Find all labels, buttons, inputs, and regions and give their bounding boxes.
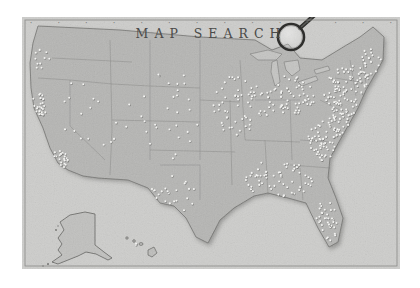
map-pin[interactable] <box>36 107 38 109</box>
map-pin[interactable] <box>345 109 347 111</box>
map-pin[interactable] <box>128 104 130 106</box>
map-pin[interactable] <box>326 146 328 148</box>
map-pin[interactable] <box>234 95 236 97</box>
map-pin[interactable] <box>364 63 366 65</box>
map-pin[interactable] <box>65 164 67 166</box>
map-pin[interactable] <box>293 168 295 170</box>
map-pin[interactable] <box>298 110 300 112</box>
map-pin[interactable] <box>280 105 282 107</box>
map-pin[interactable] <box>64 100 66 102</box>
map-pin[interactable] <box>309 86 311 88</box>
map-pin[interactable] <box>218 104 220 106</box>
map-pin[interactable] <box>329 141 331 143</box>
map-pin[interactable] <box>161 190 163 192</box>
map-pin[interactable] <box>307 135 309 137</box>
map-pin[interactable] <box>334 116 336 118</box>
map-pin[interactable] <box>247 102 249 104</box>
map-pin[interactable] <box>359 77 361 79</box>
map-pin[interactable] <box>92 98 94 100</box>
map-pin[interactable] <box>330 209 332 211</box>
map-pin[interactable] <box>324 209 326 211</box>
map-pin[interactable] <box>40 97 42 99</box>
map-pin[interactable] <box>168 82 170 84</box>
map-pin[interactable] <box>332 114 334 116</box>
map-pin[interactable] <box>245 125 247 127</box>
map-pin[interactable] <box>33 105 35 107</box>
map-pin[interactable] <box>309 103 311 105</box>
map-pin[interactable] <box>213 110 215 112</box>
map-pin[interactable] <box>327 217 329 219</box>
map-pin[interactable] <box>322 120 324 122</box>
map-pin[interactable] <box>125 126 127 128</box>
map-pin[interactable] <box>269 101 271 103</box>
map-pin[interactable] <box>63 166 65 168</box>
map-pin[interactable] <box>329 124 331 126</box>
map-pin[interactable] <box>277 84 279 86</box>
map-pin[interactable] <box>333 226 335 228</box>
map-pin[interactable] <box>336 134 338 136</box>
map-pin[interactable] <box>59 150 61 152</box>
map-pin[interactable] <box>274 88 276 90</box>
map-pin[interactable] <box>334 85 336 87</box>
map-pin[interactable] <box>41 67 43 69</box>
map-pin[interactable] <box>237 95 239 97</box>
map-pin[interactable] <box>258 184 260 186</box>
map-pin[interactable] <box>319 220 321 222</box>
map-pin[interactable] <box>44 111 46 113</box>
map-pin[interactable] <box>343 86 345 88</box>
map-pin[interactable] <box>42 98 44 100</box>
map-pin[interactable] <box>251 172 253 174</box>
map-pin[interactable] <box>267 96 269 98</box>
map-pin[interactable] <box>273 175 275 177</box>
map-pin[interactable] <box>371 54 373 56</box>
map-pin[interactable] <box>222 129 224 131</box>
map-pin[interactable] <box>228 76 230 78</box>
map-pin[interactable] <box>333 146 335 148</box>
map-pin[interactable] <box>334 119 336 121</box>
map-pin[interactable] <box>60 153 62 155</box>
map-pin[interactable] <box>329 117 331 119</box>
map-pin[interactable] <box>325 131 327 133</box>
map-pin[interactable] <box>298 189 300 191</box>
map-pin[interactable] <box>319 157 321 159</box>
map-pin[interactable] <box>328 103 330 105</box>
map-pin[interactable] <box>321 224 323 226</box>
map-pin[interactable] <box>110 141 112 143</box>
map-pin[interactable] <box>331 120 333 122</box>
map-pin[interactable] <box>54 151 56 153</box>
map-pin[interactable] <box>319 145 321 147</box>
map-pin[interactable] <box>176 83 178 85</box>
map-pin[interactable] <box>339 95 341 97</box>
map-pin[interactable] <box>249 105 251 107</box>
map-pin[interactable] <box>342 126 344 128</box>
map-pin[interactable] <box>321 159 323 161</box>
map-pin[interactable] <box>345 68 347 70</box>
map-pin[interactable] <box>370 52 372 54</box>
map-pin[interactable] <box>314 135 316 137</box>
map-pin[interactable] <box>280 96 282 98</box>
map-pin[interactable] <box>338 121 340 123</box>
map-pin[interactable] <box>250 87 252 89</box>
map-pin[interactable] <box>299 95 301 97</box>
map-pin[interactable] <box>327 148 329 150</box>
map-pin[interactable] <box>154 189 156 191</box>
map-pin[interactable] <box>326 237 328 239</box>
map-pin[interactable] <box>226 117 228 119</box>
map-pin[interactable] <box>189 140 191 142</box>
map-pin[interactable] <box>347 124 349 126</box>
map-pin[interactable] <box>270 188 272 190</box>
map-pin[interactable] <box>327 96 329 98</box>
map-pin[interactable] <box>316 217 318 219</box>
map-pin[interactable] <box>221 87 223 89</box>
map-pin[interactable] <box>351 113 353 115</box>
map-pin[interactable] <box>334 127 336 129</box>
map-pin[interactable] <box>318 216 320 218</box>
map-pin[interactable] <box>60 164 62 166</box>
map-pin[interactable] <box>314 127 316 129</box>
map-pin[interactable] <box>261 182 263 184</box>
map-pin[interactable] <box>294 112 296 114</box>
map-pin[interactable] <box>249 119 251 121</box>
map-pin[interactable] <box>337 69 339 71</box>
map-pin[interactable] <box>311 101 313 103</box>
map-pin[interactable] <box>360 71 362 73</box>
